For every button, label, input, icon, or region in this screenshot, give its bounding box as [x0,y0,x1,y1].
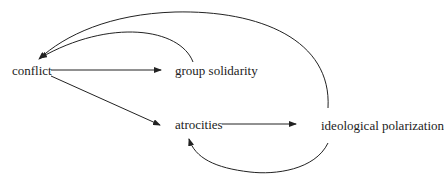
edge-group-solidarity-to-conflict [40,32,193,62]
edge-ideological-polarization-to-atrocities [189,139,328,173]
node-group-solidarity: group solidarity [175,64,258,77]
edge-ideological-polarization-to-conflict [39,12,328,108]
node-atrocities: atrocities [175,118,223,131]
node-ideological-polarization: ideological polarization [321,119,444,132]
node-conflict: conflict [12,64,52,77]
edge-conflict-to-atrocities [51,76,160,125]
